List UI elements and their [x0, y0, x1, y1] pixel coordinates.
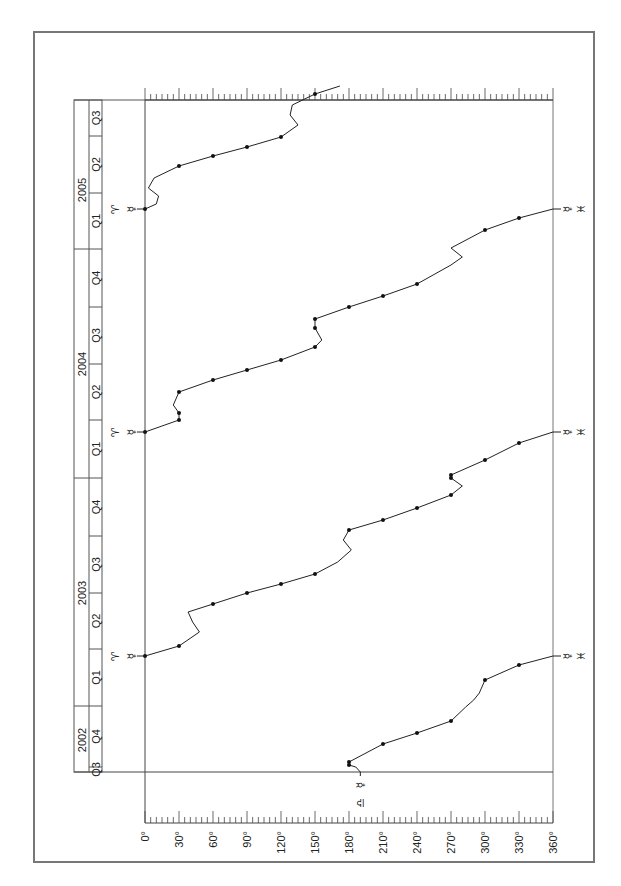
- data-point: [279, 358, 283, 362]
- data-point: [415, 731, 419, 735]
- data-point: [313, 326, 317, 330]
- quarter-label: Q3: [90, 111, 102, 126]
- data-point: [483, 228, 487, 232]
- longitude-tick-label: 120°: [275, 831, 287, 854]
- data-point: [381, 294, 385, 298]
- data-point: [449, 719, 453, 723]
- quarter-label: Q2: [90, 614, 102, 629]
- year-label: 2003: [76, 581, 88, 605]
- quarter-label: Q4: [90, 271, 102, 286]
- data-point: [245, 591, 249, 595]
- curve-segment: [145, 432, 553, 656]
- quarter-label: Q3: [90, 762, 102, 777]
- data-point: [313, 345, 317, 349]
- data-point: [347, 305, 351, 309]
- data-point: [245, 368, 249, 372]
- year-label: 2004: [76, 352, 88, 376]
- data-point: [449, 493, 453, 497]
- data-point: [517, 441, 521, 445]
- longitude-tick-label: 60°: [207, 831, 219, 848]
- pisces-planet-icon: ☿: [561, 653, 574, 660]
- aries-planet-icon: ☿: [125, 429, 138, 436]
- aries-sign-icon: ♈: [109, 204, 122, 214]
- aries-planet-icon: ☿: [125, 653, 138, 660]
- data-point: [177, 411, 181, 415]
- data-point: [177, 418, 181, 422]
- libra-planet-icon: ☿: [354, 782, 367, 789]
- longitude-tick-label: 0°: [139, 831, 151, 842]
- data-point: [211, 602, 215, 606]
- data-point: [177, 644, 181, 648]
- longitude-tick-label: 180°: [343, 831, 355, 854]
- data-point: [313, 317, 317, 321]
- longitude-tick-label: 330°: [513, 831, 525, 854]
- quarter-label: Q4: [90, 729, 102, 744]
- quarter-label: Q2: [90, 157, 102, 172]
- pisces-sign-icon: ♓: [575, 651, 588, 661]
- year-label: 2005: [76, 178, 88, 202]
- quarter-label: Q4: [90, 500, 102, 515]
- longitude-tick-label: 90°: [241, 831, 253, 848]
- quarter-label: Q2: [90, 385, 102, 400]
- libra-sign-icon: ♎: [354, 798, 367, 808]
- data-point: [211, 154, 215, 158]
- longitude-tick-label: 150°: [309, 831, 321, 854]
- curve-segment: [145, 86, 340, 209]
- data-point: [517, 663, 521, 667]
- longitude-tick-label: 30°: [173, 831, 185, 848]
- data-point: [177, 164, 181, 168]
- data-point: [381, 518, 385, 522]
- data-point: [279, 582, 283, 586]
- aries-sign-icon: ♈: [109, 651, 122, 661]
- aries-planet-icon: ☿: [125, 206, 138, 213]
- data-point: [279, 135, 283, 139]
- pisces-planet-icon: ☿: [561, 206, 574, 213]
- aries-sign-icon: ♈: [109, 427, 122, 437]
- time-axis-strip: Q3Q2Q1Q4Q3Q2Q1Q4Q3Q2Q1Q4Q320052004200320…: [74, 100, 145, 777]
- mercury-longitude-curve: [143, 86, 553, 772]
- data-point: [381, 742, 385, 746]
- data-point: [483, 458, 487, 462]
- data-point: [483, 678, 487, 682]
- longitude-tick-label: 210°: [377, 831, 389, 854]
- year-label: 2002: [76, 728, 88, 752]
- ingress-markers: ☿♈☿♈☿♈☿♓☿♓☿♓☿♎: [109, 204, 588, 808]
- longitude-tick-label: 270°: [445, 831, 457, 854]
- data-point: [347, 760, 351, 764]
- longitude-tick-label: 360°: [547, 831, 559, 854]
- data-point: [177, 390, 181, 394]
- mercury-ingress-chart: Q3Q2Q1Q4Q3Q2Q1Q4Q3Q2Q1Q4Q320052004200320…: [0, 0, 621, 886]
- curve-segment: [349, 656, 553, 772]
- quarter-label: Q1: [90, 214, 102, 229]
- pisces-sign-icon: ♓: [575, 204, 588, 214]
- data-point: [211, 378, 215, 382]
- pisces-planet-icon: ☿: [561, 429, 574, 436]
- quarter-label: Q1: [90, 670, 102, 685]
- longitude-axis-top: [145, 88, 553, 100]
- curve-segment: [145, 209, 553, 432]
- data-point: [415, 282, 419, 286]
- data-point: [517, 216, 521, 220]
- data-point: [313, 92, 317, 96]
- data-point: [245, 145, 249, 149]
- data-point: [415, 506, 419, 510]
- longitude-tick-label: 300°: [479, 831, 491, 854]
- data-point: [347, 528, 351, 532]
- quarter-label: Q3: [90, 557, 102, 572]
- data-point: [313, 572, 317, 576]
- longitude-tick-label: 240°: [411, 831, 423, 854]
- quarter-label: Q1: [90, 442, 102, 457]
- data-point: [449, 473, 453, 477]
- pisces-sign-icon: ♓: [575, 427, 588, 437]
- longitude-axis-bottom: 0°30°60°90°120°150°180°210°240°270°300°3…: [139, 811, 559, 854]
- quarter-label: Q3: [90, 328, 102, 343]
